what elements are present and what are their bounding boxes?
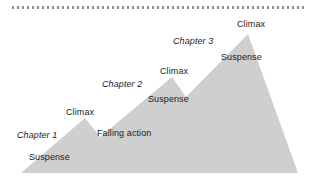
label-suspense-chapter-3: Suspense	[221, 52, 262, 62]
label-chapter-3: Chapter 3	[173, 36, 213, 46]
label-falling-action: Falling action	[97, 128, 151, 138]
label-climax-chapter-2: Climax	[160, 66, 188, 76]
label-suspense-chapter-2: Suspense	[148, 94, 189, 104]
story-arc-figure: Chapter 1 Suspense Climax Falling action…	[0, 0, 313, 190]
label-suspense-chapter-1: Suspense	[29, 152, 70, 162]
label-chapter-1: Chapter 1	[17, 130, 57, 140]
label-climax-chapter-1: Climax	[66, 107, 94, 117]
label-climax-chapter-3: Climax	[237, 19, 265, 29]
label-chapter-2: Chapter 2	[102, 79, 142, 89]
